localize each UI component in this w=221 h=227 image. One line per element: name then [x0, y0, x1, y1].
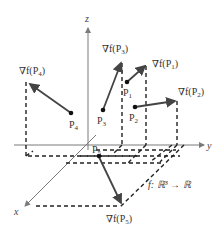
point-p2 [133, 105, 138, 110]
gradient-label-p4: ∇f(P4) [19, 65, 45, 78]
point-p3 [101, 108, 106, 113]
point-p1 [125, 80, 130, 85]
gradient-label-p3: ∇f(P3) [102, 43, 128, 56]
gradient-field-diagram: z y x [0, 0, 221, 227]
gradient-vector-p3 [103, 63, 121, 110]
point-label-p5: P5 [92, 144, 102, 157]
x-axis-label: x [13, 206, 19, 217]
gradient-label-p2: ∇f(P2) [178, 86, 204, 99]
point-label-p2: P2 [129, 112, 139, 125]
function-label: f: ℝ³ → ℝ [148, 179, 192, 190]
gradient-label-p5: ∇f(P5) [106, 213, 132, 226]
gradient-label-p1: ∇f(P1) [152, 58, 178, 71]
gradient-vector-p5 [99, 157, 121, 203]
point-label-p4: P4 [69, 119, 79, 132]
point-label-p1: P1 [123, 87, 133, 100]
point-label-p3: P3 [97, 115, 107, 128]
gradient-vector-p4 [30, 84, 71, 113]
z-axis-label: z [84, 13, 89, 24]
y-axis-label: y [206, 140, 212, 151]
point-p4 [69, 111, 74, 116]
gradient-vector-p1 [127, 66, 145, 82]
x-axis [25, 135, 96, 206]
gradient-vector-p2 [135, 101, 175, 107]
